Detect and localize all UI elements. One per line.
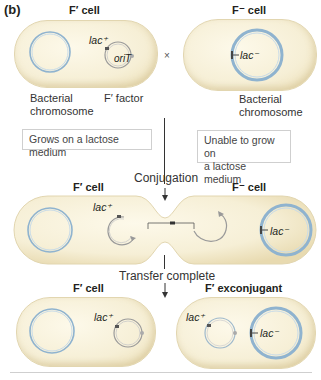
middle-left-cell-title: F′ cell (73, 181, 104, 193)
top-right-cell-title: F⁻ cell (232, 4, 266, 17)
flow-line-middle (164, 255, 165, 269)
right-chromosome-caption: Bacterial chromosome (239, 93, 303, 119)
caption-line: Bacterial (30, 92, 94, 105)
caption-line: Bacterial (239, 93, 303, 106)
bottom-divider (10, 372, 312, 373)
caption-line: chromosome (30, 105, 94, 118)
down-arrow-icon (160, 283, 170, 299)
phenotype-line: Unable to grow on (204, 134, 284, 160)
middle-lac-minus-label: lac⁻ (270, 225, 289, 237)
bacterial-chromosome-icon (30, 309, 74, 353)
bottom-right-cell-title: F′ exconjugant (205, 282, 282, 294)
f-prime-plasmid-icon (205, 318, 237, 348)
panel-label: (b) (4, 2, 21, 17)
top-left-cell-title: F′ cell (69, 4, 100, 16)
left-chromosome-caption: Bacterial chromosome (30, 92, 94, 118)
left-phenotype-box: Grows on a lactose medium (22, 129, 152, 150)
orit-label: oriT (114, 53, 131, 64)
transfer-complete-label: Transfer complete (119, 269, 215, 283)
f-factor-caption: F′ factor (104, 92, 143, 105)
lac-plus-label: lac⁺ (89, 34, 108, 46)
caption-line: chromosome (239, 106, 303, 119)
middle-right-cell-title: F⁻ cell (232, 181, 266, 194)
right-phenotype-box: Unable to grow on a lactose medium (197, 130, 291, 163)
bottom-left-lac-plus-label: lac⁺ (94, 311, 113, 323)
bottom-right-lac-plus-label: lac⁺ (186, 311, 205, 323)
f-prime-plasmid-icon (114, 319, 144, 347)
conjugation-label: Conjugation (134, 171, 198, 185)
bottom-left-cell-contents (16, 297, 154, 365)
top-left-cell-contents (14, 20, 156, 86)
bacterial-chromosome-icon (30, 32, 70, 72)
cross-symbol: × (164, 50, 170, 61)
lac-minus-label: lac⁻ (240, 49, 259, 61)
bottom-right-lac-minus-label: lac⁻ (260, 327, 279, 339)
middle-lac-plus-label: lac⁺ (93, 201, 112, 213)
bottom-left-cell-title: F′ cell (73, 282, 104, 294)
bottom-right-cell-contents (176, 297, 314, 367)
